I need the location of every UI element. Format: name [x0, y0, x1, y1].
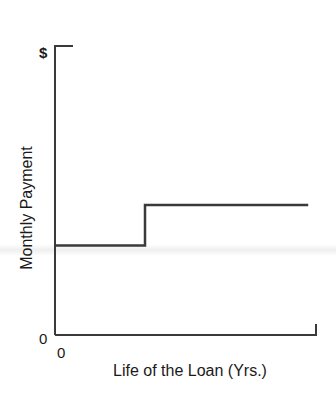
y-axis-max-label: $: [39, 45, 47, 60]
monthly-payment-step-line: [55, 205, 308, 246]
chart-plot: [0, 0, 336, 393]
y-axis-zero-label: 0: [39, 331, 47, 346]
step-line-chart: $ 0 0 Monthly Payment Life of the Loan (…: [0, 0, 336, 393]
y-axis-title: Monthly Payment: [18, 146, 36, 270]
x-axis: [55, 324, 316, 335]
x-axis-title: Life of the Loan (Yrs.): [113, 362, 267, 380]
x-axis-zero-label: 0: [57, 345, 65, 360]
y-axis: [55, 46, 73, 335]
